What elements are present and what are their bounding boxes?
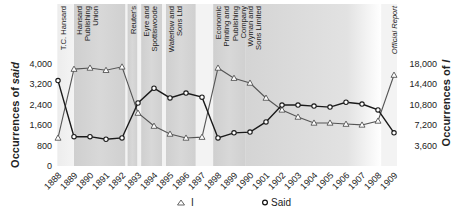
legend-triangle-icon (178, 200, 185, 205)
svg-text:1908: 1908 (362, 170, 383, 191)
left-axis-title: Occurrences of said (9, 62, 21, 168)
said-point (328, 105, 332, 109)
said-point (120, 136, 124, 140)
band-label: Sons Limited (254, 6, 263, 50)
right-axis-title: Occurrences of I (440, 59, 452, 147)
said-point (248, 130, 252, 134)
svg-text:1893: 1893 (122, 170, 143, 191)
svg-text:1888: 1888 (42, 170, 63, 191)
said-point (376, 108, 380, 112)
svg-text:7,200: 7,200 (414, 120, 437, 130)
band-label: Union (91, 6, 100, 26)
chart-container: T.C. HansardHansardPublishingUnionReuter… (0, 0, 463, 217)
svg-text:10,800: 10,800 (409, 100, 437, 110)
said-point (72, 134, 76, 138)
right-y-axis: 3,6007,20010,80014,40018,000 (409, 59, 437, 151)
band-label: Reuter's (129, 6, 138, 34)
said-point (136, 101, 140, 105)
left-y-axis: 08001,6002,4003,2004,000 (29, 59, 52, 171)
svg-text:1906: 1906 (330, 170, 351, 191)
said-point (152, 86, 156, 90)
said-point (216, 136, 220, 140)
said-point (312, 104, 316, 108)
svg-text:1905: 1905 (314, 170, 335, 191)
svg-text:2,400: 2,400 (29, 100, 52, 110)
said-point (296, 103, 300, 107)
svg-text:1897: 1897 (186, 170, 207, 191)
svg-text:14,400: 14,400 (409, 79, 437, 89)
legend-circle-icon (263, 200, 268, 205)
said-point (168, 96, 172, 100)
said-point (344, 100, 348, 104)
svg-text:1894: 1894 (138, 170, 159, 191)
svg-text:1907: 1907 (346, 170, 367, 191)
svg-text:800: 800 (37, 141, 52, 151)
svg-text:1899: 1899 (218, 170, 239, 191)
svg-text:1901: 1901 (250, 170, 271, 191)
said-point (280, 103, 284, 107)
svg-text:1,600: 1,600 (29, 120, 52, 130)
svg-text:4,000: 4,000 (29, 59, 52, 69)
svg-text:0: 0 (47, 161, 52, 171)
band-label: T.C. Hansard (59, 6, 68, 50)
legend: ISaid (178, 197, 292, 208)
said-point (200, 95, 204, 99)
official-report-annotation: Official Report (390, 5, 399, 54)
band-label: Sons Ltd (175, 6, 184, 36)
said-point (184, 91, 188, 95)
svg-text:1898: 1898 (202, 170, 223, 191)
svg-text:1903: 1903 (282, 170, 303, 191)
said-point (56, 78, 60, 82)
svg-text:1896: 1896 (170, 170, 191, 191)
svg-text:1892: 1892 (106, 170, 127, 191)
svg-text:1889: 1889 (58, 170, 79, 191)
said-point (360, 102, 364, 106)
band-6 (245, 4, 381, 166)
line-chart: T.C. HansardHansardPublishingUnionReuter… (0, 0, 463, 217)
svg-text:1902: 1902 (266, 170, 287, 191)
legend-label-i: I (191, 197, 194, 208)
svg-text:1895: 1895 (154, 170, 175, 191)
said-point (104, 137, 108, 141)
said-point (88, 134, 92, 138)
svg-text:1909: 1909 (378, 170, 399, 191)
svg-text:1890: 1890 (74, 170, 95, 191)
svg-text:18,000: 18,000 (409, 59, 437, 69)
x-axis: 1888188918901891189218931894189518961897… (42, 170, 399, 191)
svg-text:3,600: 3,600 (414, 141, 437, 151)
said-point (232, 131, 236, 135)
svg-text:1891: 1891 (90, 170, 111, 191)
legend-label-said: Said (271, 197, 291, 208)
svg-text:1990: 1990 (234, 170, 255, 191)
svg-text:1904: 1904 (298, 170, 319, 191)
svg-text:3,200: 3,200 (29, 79, 52, 89)
said-point (264, 120, 268, 124)
band-label: Spottiswoode (150, 6, 159, 52)
said-point (392, 131, 396, 135)
